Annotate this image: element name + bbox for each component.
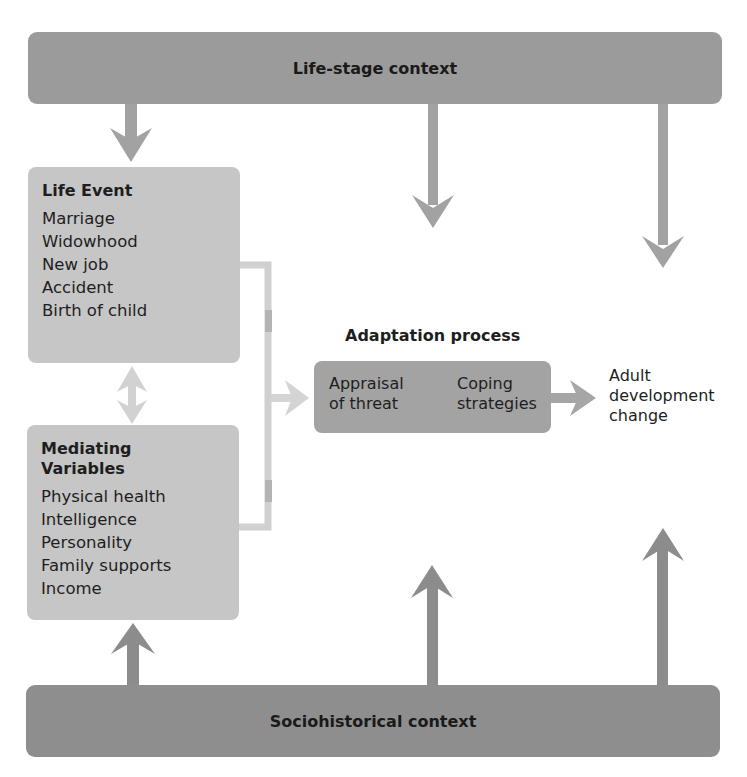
outcome-line-1: Adult [609,366,715,386]
mediating-variables-title-1: Mediating [41,439,225,459]
coping-strategies: Coping strategies [457,374,537,414]
sociohistorical-context-bar: Sociohistorical context [26,685,720,757]
arrow-life-stage-down-right [642,100,684,268]
arrow-to-outcome [550,380,596,416]
arrow-to-adaptation [270,380,309,416]
life-event-item: Marriage [42,207,226,230]
arrow-sociohistorical-up-middle [411,565,453,688]
life-stage-context-label: Life-stage context [293,59,457,78]
life-stage-context-bar: Life-stage context [28,32,722,104]
life-event-item: New job [42,253,226,276]
arrow-life-stage-down-middle [412,100,454,228]
arrow-sociohistorical-up-right [642,528,684,688]
double-arrow-life-event-mediating [117,366,147,424]
appraisal-line-1: Appraisal [329,374,404,394]
life-event-box: Life Event Marriage Widowhood New job Ac… [28,167,240,363]
adaptation-process-title: Adaptation process [345,326,520,345]
mediating-variables-title-2: Variables [41,459,225,479]
mediating-variable-item: Income [41,577,225,600]
outcome-line-3: change [609,406,715,426]
adult-development-change: Adult development change [609,366,715,426]
mediating-variable-item: Physical health [41,485,225,508]
appraisal-line-2: of threat [329,394,404,414]
life-event-item: Accident [42,276,226,299]
arrow-life-stage-to-life-event [110,100,152,162]
sociohistorical-context-label: Sociohistorical context [270,712,477,731]
mediating-variable-item: Family supports [41,554,225,577]
life-event-title: Life Event [42,181,226,201]
bracket-connector [239,265,268,527]
mediating-variable-item: Intelligence [41,508,225,531]
coping-line-1: Coping [457,374,537,394]
outcome-line-2: development [609,386,715,406]
life-event-item: Widowhood [42,230,226,253]
coping-line-2: strategies [457,394,537,414]
mediating-variables-box: Mediating Variables Physical health Inte… [27,425,239,620]
life-event-item: Birth of child [42,299,226,322]
mediating-variable-item: Personality [41,531,225,554]
adaptation-process-box: Appraisal of threat Coping strategies [314,361,551,433]
appraisal-of-threat: Appraisal of threat [329,374,404,414]
arrow-sociohistorical-to-mediating [111,623,155,688]
